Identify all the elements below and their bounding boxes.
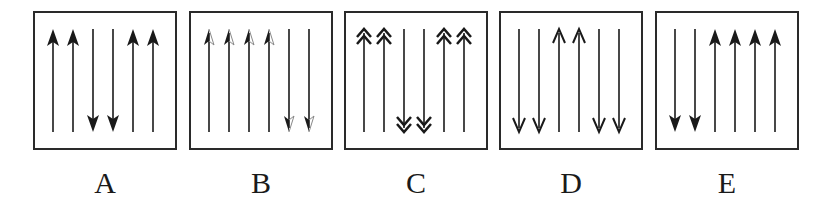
option-label: B (189, 166, 333, 200)
option-label: A (33, 166, 177, 200)
down-arrow-icon (689, 29, 701, 132)
up-arrow-icon (457, 29, 471, 132)
down-arrow-icon (513, 29, 525, 132)
down-arrow-icon (669, 29, 681, 132)
arrow-box (499, 11, 643, 150)
up-arrow-icon (573, 29, 585, 132)
up-arrow-icon (47, 29, 59, 132)
arrow-box (655, 11, 799, 150)
option-panel-a[interactable]: A (33, 0, 189, 208)
option-panel-e[interactable]: E (655, 0, 811, 208)
down-arrow-icon (107, 29, 119, 132)
arrow-box (344, 11, 488, 150)
down-arrow-icon (533, 29, 545, 132)
down-arrow-icon (417, 29, 431, 132)
option-label: E (655, 166, 799, 200)
down-arrow-icon (87, 29, 99, 132)
up-arrow-icon (127, 29, 139, 132)
up-arrow-icon (769, 29, 781, 132)
up-arrow-icon (377, 29, 391, 132)
up-arrow-icon (729, 29, 741, 132)
option-panel-b[interactable]: B (189, 0, 345, 208)
arrow-box (189, 11, 333, 150)
up-arrow-icon (224, 29, 234, 132)
down-arrow-icon (593, 29, 605, 132)
up-arrow-icon (749, 29, 761, 132)
up-arrow-icon (67, 29, 79, 132)
up-arrow-icon (147, 29, 159, 132)
up-arrow-icon (204, 29, 214, 132)
up-arrow-icon (709, 29, 721, 132)
down-arrow-icon (304, 29, 314, 132)
down-arrow-icon (613, 29, 625, 132)
up-arrow-icon (264, 29, 274, 132)
up-arrow-icon (437, 29, 451, 132)
option-panel-d[interactable]: D (499, 0, 655, 208)
down-arrow-icon (397, 29, 411, 132)
up-arrow-icon (244, 29, 254, 132)
option-panel-c[interactable]: C (344, 0, 500, 208)
option-label: D (499, 166, 643, 200)
down-arrow-icon (284, 29, 294, 132)
option-label: C (344, 166, 488, 200)
arrow-box (33, 11, 177, 150)
up-arrow-icon (553, 29, 565, 132)
up-arrow-icon (357, 29, 371, 132)
